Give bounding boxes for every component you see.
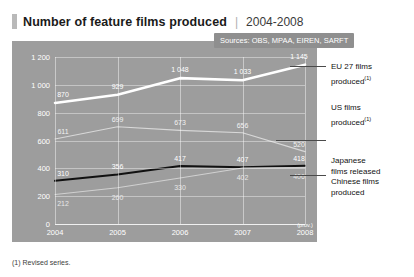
x-axis-label-2005: 2005	[109, 228, 126, 237]
x-axis-label-2007: 2007	[234, 228, 251, 237]
data-label-1-2005: 699	[112, 115, 124, 122]
data-label-3-2007: 402	[237, 174, 249, 181]
legend-us-footnote: (1)	[364, 116, 371, 122]
x-axis-label-2004: 2004	[47, 228, 64, 237]
footnote: (1) Revised series.	[12, 259, 70, 266]
gridline-y-0	[55, 224, 305, 225]
legend-leader-line-0	[290, 66, 326, 67]
y-axis-label-200: 200	[37, 192, 50, 201]
data-label-3-2004: 212	[57, 200, 69, 207]
page-title: Number of feature films produced | 2004-…	[12, 14, 303, 29]
y-axis-label-400: 400	[37, 164, 50, 173]
data-label-0-2008: 1 145	[290, 52, 308, 59]
data-label-0-2007: 1 033	[234, 68, 252, 75]
data-label-2-2006: 417	[174, 154, 186, 161]
data-label-1-2006: 673	[174, 119, 186, 126]
legend-us-line1: US films	[331, 103, 371, 114]
data-label-0-2006: 1 048	[171, 66, 189, 73]
chart-area: 02004006008001 0001 2002004200520062007(…	[12, 41, 317, 242]
chart-page: Number of feature films produced | 2004-…	[0, 0, 414, 277]
legend-jp-line1: Japanese	[331, 156, 380, 167]
legend-eu-line1: EU 27 films	[331, 62, 372, 73]
legend-us-films: US films produced(1)	[325, 99, 376, 132]
legend-eu-line2: produced(1)	[331, 73, 372, 87]
legend-japan-china-films: Japanese films released Chinese films pr…	[325, 152, 385, 202]
title-separator: |	[235, 15, 238, 29]
legend-leader-line-2	[290, 175, 326, 176]
sources-box: Sources: OBS, MPAA, EIREN, SARFT	[214, 33, 354, 48]
data-label-1-2007: 656	[237, 121, 249, 128]
data-label-2-2008: 418	[293, 154, 305, 161]
data-label-1-2004: 611	[57, 127, 68, 134]
x-axis-label-2006: 2006	[172, 228, 189, 237]
title-text: Number of feature films produced	[23, 15, 227, 29]
y-axis-label-1000: 1 000	[31, 80, 50, 89]
gridline-x-2007	[243, 57, 244, 224]
data-label-2-2004: 310	[57, 169, 69, 176]
legend-cn-line2: produced	[331, 188, 380, 199]
data-label-0-2004: 870	[57, 90, 69, 97]
legend-eu-films: EU 27 films produced(1)	[325, 58, 377, 91]
legend-leader-line-1	[276, 140, 326, 141]
x-axis-label-2008: (prov.)2008	[297, 222, 314, 237]
data-label-3-2005: 260	[112, 193, 124, 200]
y-axis-label-1200: 1 200	[31, 53, 50, 62]
title-period: 2004-2008	[246, 15, 303, 29]
legend-cn-line1: Chinese films	[331, 177, 380, 188]
data-label-2-2007: 407	[237, 156, 249, 163]
data-label-3-2006: 330	[174, 184, 186, 191]
data-label-2-2005: 356	[112, 163, 124, 170]
legend-us-line2: produced(1)	[331, 114, 371, 128]
x-axis-annotation-2008: (prov.)	[297, 222, 314, 228]
gridline-x-2004	[55, 57, 56, 224]
data-label-1-2008: 520	[293, 140, 305, 147]
gridline-x-2006	[180, 57, 181, 224]
title-accent-bar	[12, 14, 17, 29]
plot-region: 02004006008001 0001 2002004200520062007(…	[55, 57, 305, 224]
legend-eu-footnote: (1)	[364, 75, 371, 81]
y-axis-label-600: 600	[37, 136, 50, 145]
data-label-0-2005: 929	[112, 82, 124, 89]
y-axis-label-800: 800	[37, 108, 50, 117]
legend-jp-line2: films released	[331, 167, 380, 178]
